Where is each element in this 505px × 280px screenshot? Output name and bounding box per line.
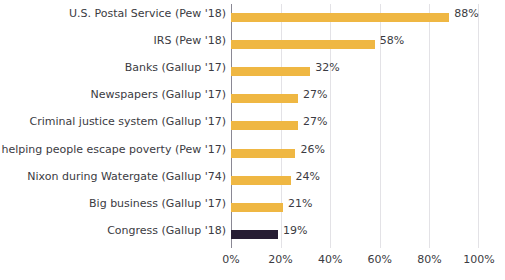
bar — [231, 176, 291, 185]
bar-value-label: 21% — [288, 198, 312, 209]
x-tick-label: 20% — [268, 254, 292, 265]
x-tick-label: 0% — [222, 254, 239, 265]
category-label: Big business (Gallup '17) — [89, 198, 226, 209]
bar — [231, 40, 375, 49]
bar-value-label: 27% — [303, 116, 327, 127]
category-label: IRS (Pew '18) — [154, 35, 226, 46]
bar-row: Newspapers (Gallup '17)27% — [0, 85, 505, 112]
category-label: Banks (Gallup '17) — [125, 62, 226, 73]
bar — [231, 67, 310, 76]
bar-row: Banks (Gallup '17)32% — [0, 58, 505, 85]
bar-value-label: 58% — [380, 35, 404, 46]
category-label: U.S. Postal Service (Pew '18) — [69, 8, 226, 19]
bar-value-label: 27% — [303, 89, 327, 100]
x-tick-label: 40% — [318, 254, 342, 265]
bar-value-label: 19% — [283, 225, 307, 236]
bar-row: Nixon during Watergate (Gallup '74)24% — [0, 167, 505, 194]
bar — [231, 13, 449, 22]
x-tick-label: 100% — [463, 254, 494, 265]
bar-row: Congress (Gallup '18)19% — [0, 221, 505, 248]
bar — [231, 94, 298, 103]
x-tick-label: 60% — [368, 254, 392, 265]
bar-value-label: 88% — [454, 8, 478, 19]
bar-row: Big business (Gallup '17)21% — [0, 194, 505, 221]
category-label: Gov't helping people escape poverty (Pew… — [0, 144, 226, 155]
bar-row: IRS (Pew '18)58% — [0, 31, 505, 58]
bar-value-label: 24% — [296, 171, 320, 182]
bar — [231, 203, 283, 212]
category-label: Nixon during Watergate (Gallup '74) — [27, 171, 226, 182]
bar-value-label: 32% — [315, 62, 339, 73]
bar — [231, 121, 298, 130]
bar-row: U.S. Postal Service (Pew '18)88% — [0, 4, 505, 31]
x-tick-label: 80% — [417, 254, 441, 265]
bar-chart: U.S. Postal Service (Pew '18)88%IRS (Pew… — [0, 0, 505, 280]
category-label: Congress (Gallup '18) — [107, 225, 226, 236]
category-label: Newspapers (Gallup '17) — [91, 89, 226, 100]
bar-value-label: 26% — [300, 144, 324, 155]
bar-row: Gov't helping people escape poverty (Pew… — [0, 140, 505, 167]
category-label: Criminal justice system (Gallup '17) — [30, 116, 226, 127]
bar — [231, 149, 295, 158]
bar-row: Criminal justice system (Gallup '17)27% — [0, 112, 505, 139]
bar — [231, 230, 278, 239]
